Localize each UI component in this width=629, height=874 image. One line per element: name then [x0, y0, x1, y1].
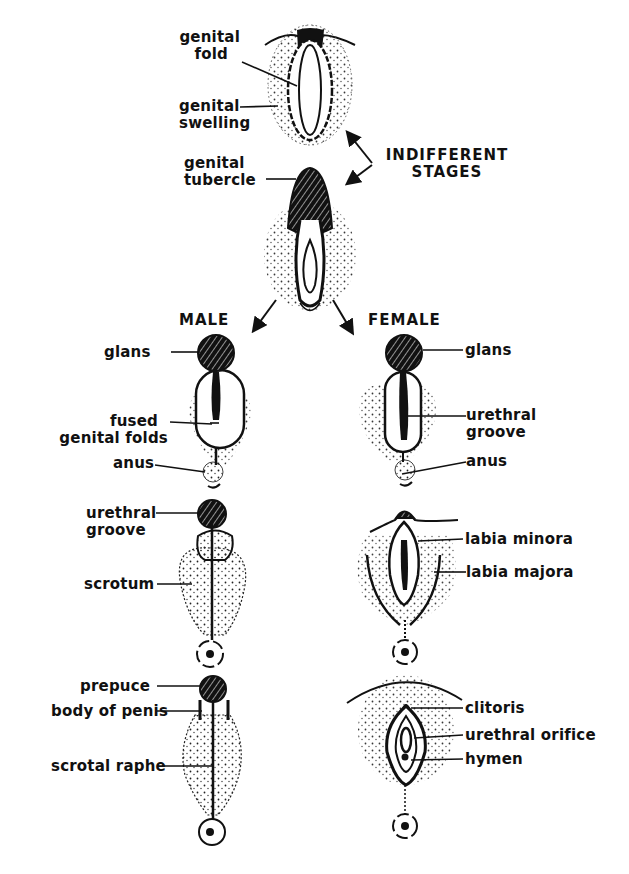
label-genital-fold: genital fold	[178, 29, 240, 63]
label-body-of-penis: body of penis	[51, 703, 168, 720]
female-stage-3	[347, 675, 462, 838]
genitalia-differentiation-diagram: genital fold genital swelling INDIFFEREN…	[0, 0, 629, 874]
arrow-to-male	[254, 300, 276, 330]
label-labia-majora: labia majora	[466, 564, 574, 581]
female-stage-2	[358, 512, 459, 665]
label-line: STAGES	[372, 164, 522, 181]
label-labia-minora: labia minora	[465, 531, 573, 548]
label-female-glans: glans	[465, 342, 512, 359]
label-male-anus: anus	[113, 455, 154, 472]
label-line: genital folds	[54, 430, 168, 447]
label-male-urethral-groove: urethral groove	[86, 505, 156, 539]
indifferent-stage-2	[264, 168, 356, 311]
label-urethral-orifice: urethral orifice	[465, 727, 596, 744]
male-stage-3	[183, 676, 241, 845]
arrow-to-stage-2	[348, 165, 372, 183]
label-fused-genital-folds: fused genital folds	[54, 413, 168, 447]
label-genital-swelling: genital swelling	[179, 98, 250, 132]
label-indifferent-stages: INDIFFERENT STAGES	[372, 147, 522, 181]
label-line: genital	[179, 98, 250, 115]
label-female-anus: anus	[466, 453, 507, 470]
indifferent-stage-1	[265, 25, 355, 145]
label-scrotum: scrotum	[84, 576, 154, 593]
label-line: fused	[54, 413, 168, 430]
label-line: INDIFFERENT	[372, 147, 522, 164]
label-line: urethral	[466, 407, 536, 424]
arrow-to-stage-1	[348, 133, 372, 163]
label-prepuce: prepuce	[80, 678, 150, 695]
label-female-urethral-groove: urethral groove	[466, 407, 536, 441]
label-male: MALE	[179, 312, 229, 329]
label-genital-tubercle: genital tubercle	[184, 155, 256, 189]
label-line: genital	[178, 29, 240, 46]
label-scrotal-raphe: scrotal raphe	[51, 758, 166, 775]
label-line: genital	[184, 155, 256, 172]
arrow-to-female	[333, 300, 352, 332]
label-hymen: hymen	[465, 751, 523, 768]
female-stage-1	[359, 335, 436, 486]
label-male-glans: glans	[104, 344, 151, 361]
label-female: FEMALE	[368, 312, 441, 329]
label-line: tubercle	[184, 172, 256, 189]
label-line: swelling	[179, 115, 250, 132]
label-line: urethral	[86, 505, 156, 522]
label-clitoris: clitoris	[465, 700, 525, 717]
label-line: groove	[466, 424, 536, 441]
label-line: fold	[178, 46, 240, 63]
label-line: groove	[86, 522, 156, 539]
male-stage-1	[189, 335, 251, 488]
